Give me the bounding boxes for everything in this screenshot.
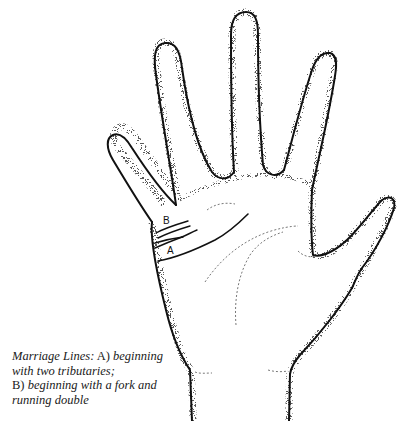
caption-line-4: running double [12, 393, 202, 408]
caption-marker-a: A) [97, 349, 110, 363]
life-line [236, 232, 283, 325]
caption-line-3: B) beginning with a fork and [12, 378, 202, 393]
figure-caption: Marriage Lines: A) beginning with two tr… [12, 349, 202, 407]
caption-title: Marriage Lines: [12, 349, 94, 363]
caption-marker-b: B) [12, 378, 25, 392]
palm-creases [195, 203, 316, 373]
wrist-crease-right [268, 370, 288, 372]
head-line [205, 226, 298, 282]
marriage-line-b-upper [156, 221, 188, 233]
heart-line [207, 203, 235, 210]
caption-b-text-1: beginning with a fork and [28, 378, 157, 392]
label-b: B [163, 215, 170, 226]
caption-a-text-1: beginning [113, 349, 163, 363]
label-a: A [167, 245, 174, 256]
marriage-line-a-main [182, 230, 197, 237]
caption-line-1: Marriage Lines: A) beginning [12, 349, 202, 364]
caption-line-2: with two tributaries; [12, 364, 202, 379]
